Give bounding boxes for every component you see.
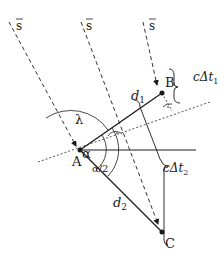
label-alpha-half: α/2	[92, 163, 108, 174]
baseline-d1	[80, 93, 162, 150]
perpendicular-b	[162, 93, 172, 111]
label-d1: d1	[131, 88, 145, 105]
label-d2: d2	[113, 195, 127, 212]
label-lambda: λ	[75, 112, 83, 127]
label-s-2: s	[86, 19, 92, 33]
label-alpha: α	[82, 146, 91, 161]
signal-ray-1	[9, 22, 76, 146]
label-point-c: C	[165, 236, 175, 251]
label-c-dt1: cΔt1	[193, 70, 218, 86]
alpha-half-arc	[108, 128, 119, 176]
point-c	[160, 230, 165, 235]
label-c-dt2: cΔt2	[163, 161, 188, 177]
point-b	[160, 91, 165, 96]
tdoa-geometry-diagram: s s s A B C d1 d2 λ α α/2 cΔt1 cΔt2	[0, 0, 224, 258]
label-s-1: s	[16, 19, 22, 33]
label-point-b: B	[165, 75, 175, 90]
label-s-3: s	[149, 19, 155, 33]
label-point-a: A	[71, 154, 82, 169]
signal-rays	[9, 22, 158, 224]
